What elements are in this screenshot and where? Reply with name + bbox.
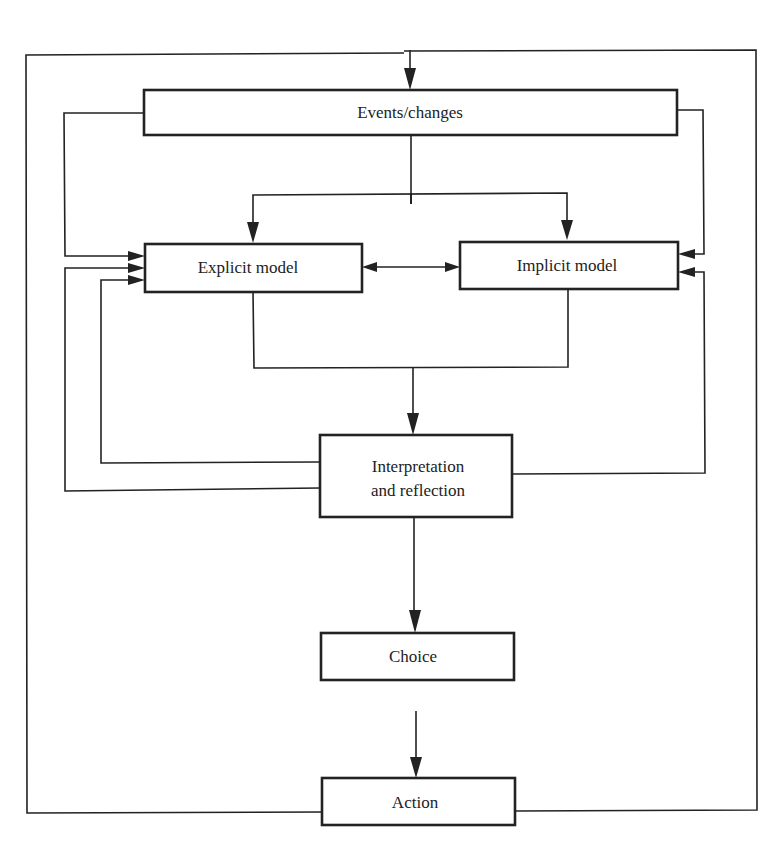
- arrowhead-into-action: [410, 757, 422, 778]
- arrowhead-into-events: [404, 68, 416, 90]
- arrowhead-implicit-right-1: [678, 249, 695, 259]
- interpretation-box: [320, 435, 512, 517]
- arrowhead-into-interpretation: [407, 413, 419, 435]
- arrowhead-to-implicit: [445, 262, 460, 272]
- outer-loop-left: [26, 53, 404, 813]
- events-side-feed-left: [64, 113, 143, 256]
- interp-feedback-explicit-inner: [101, 280, 320, 463]
- arrowhead-to-explicit: [362, 262, 377, 272]
- events-side-feed-right: [677, 110, 704, 254]
- split-bar: [253, 193, 567, 224]
- connector-lines: [26, 50, 757, 813]
- interp-feedback-explicit-outer: [65, 268, 320, 491]
- events-label: Events/changes: [357, 103, 463, 122]
- implicit-model-label: Implicit model: [517, 256, 618, 275]
- arrowhead-explicit-left-1: [128, 251, 145, 261]
- explicit-model-label: Explicit model: [198, 258, 299, 277]
- choice-label: Choice: [389, 647, 437, 666]
- arrowhead-explicit-left-2: [128, 263, 145, 273]
- arrowhead-into-implicit-top: [561, 220, 573, 240]
- arrowhead-into-choice: [409, 610, 421, 633]
- action-label: Action: [392, 793, 439, 812]
- flow-diagram: Events/changes Explicit model Implicit m…: [0, 0, 774, 850]
- interp-feedback-implicit: [512, 272, 705, 474]
- models-merge: [253, 289, 568, 368]
- arrowhead-explicit-left-3: [128, 275, 145, 285]
- interpretation-label-line2: and reflection: [371, 481, 465, 500]
- arrowhead-into-explicit-top: [247, 222, 259, 243]
- arrowhead-implicit-right-2: [678, 267, 695, 277]
- interpretation-label-line1: Interpretation: [372, 457, 465, 476]
